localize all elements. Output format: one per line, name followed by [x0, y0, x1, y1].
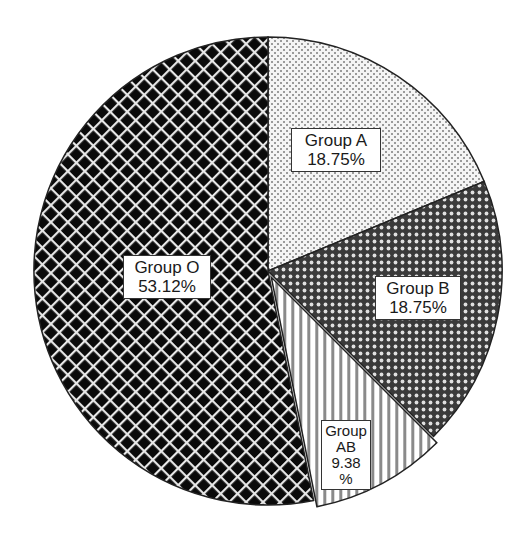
label-group-a-percent: 18.75% — [296, 150, 376, 169]
label-group-ab-percent: 9.38 % — [325, 455, 367, 487]
label-group-o: Group O 53.12% — [123, 255, 211, 299]
label-group-b: Group B 18.75% — [375, 276, 461, 320]
label-group-a: Group A 18.75% — [291, 128, 381, 172]
label-group-ab: Group AB 9.38 % — [321, 420, 371, 490]
label-group-ab-name-line2: AB — [325, 439, 367, 455]
label-group-o-percent: 53.12% — [128, 277, 206, 296]
label-group-b-name: Group B — [380, 279, 456, 298]
label-group-a-name: Group A — [296, 131, 376, 150]
label-group-o-name: Group O — [128, 258, 206, 277]
label-group-b-percent: 18.75% — [380, 298, 456, 317]
label-group-ab-name-line1: Group — [325, 423, 367, 439]
